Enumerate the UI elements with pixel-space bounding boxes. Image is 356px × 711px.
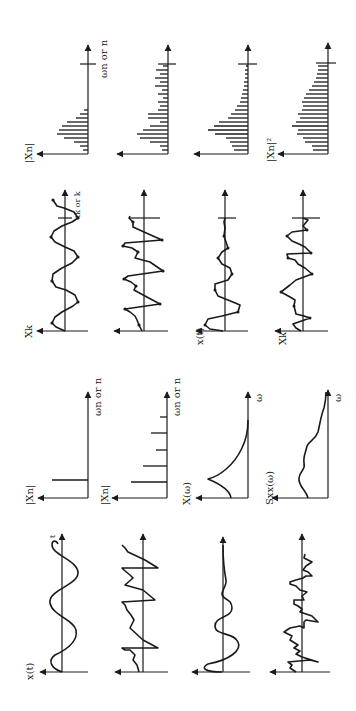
xn-abs-label: |Xn| (23, 143, 35, 163)
Sxx-omega-label: Sxx(ω) (264, 471, 275, 505)
peak-spectrum-curve (208, 420, 248, 498)
xn-abs-label: |Xn| (99, 485, 111, 505)
plot-random-continuous (270, 534, 330, 672)
xt-label: x(t) (194, 327, 205, 345)
omega-label: ω (253, 394, 264, 402)
spectrum-random-continuous: Sxx(ω) ω (264, 390, 343, 505)
plot-periodic-sampled (114, 190, 168, 331)
sine-wave (50, 541, 78, 672)
plot-sine-continuous: x(t) t (24, 534, 88, 680)
t-label: t (48, 534, 57, 538)
spectrum-sine-discrete: |Xn| ωn or n (23, 39, 109, 163)
spectral-lines (57, 110, 88, 150)
spectrum-transient-continuous: X(ω) ω (181, 392, 264, 505)
wn-or-n-label: ωn or n (98, 39, 109, 78)
wn-or-n-label: ωn or n (92, 377, 103, 416)
plot-periodic-continuous (115, 534, 168, 672)
periodic-wave (122, 545, 158, 672)
spectrum-random-discrete: |Xn|² (265, 43, 336, 162)
xk-label: Xk (277, 331, 288, 345)
xt-label: x(t) (24, 662, 35, 680)
xn-abs-sq-label: |Xn|² (265, 138, 277, 162)
spectral-lines (137, 66, 168, 150)
spectral-lines (292, 66, 328, 150)
sampled-random (281, 218, 312, 331)
plot-transient-sampled: x(t) (194, 190, 248, 345)
spectrum-sine-continuous: |Xn| ωn or n (24, 377, 103, 505)
sampled-periodic (123, 216, 163, 331)
omega-label: ω (332, 394, 343, 402)
random-signal (284, 554, 318, 672)
spectrum-periodic-discrete (117, 45, 176, 154)
tk-or-k-label: tk or k (73, 191, 82, 218)
sampled-transient (205, 218, 240, 331)
X-omega-label: X(ω) (181, 482, 192, 505)
plot-random-sampled: Xk (275, 190, 328, 345)
spectrum-transient-discrete (194, 45, 257, 154)
xn-abs-label: |Xn| (24, 485, 36, 505)
plot-sine-sampled: Xk tk or k (23, 190, 88, 338)
signal-spectrum-figure: x(t) t |Xn| ωn or n |Xn| ωn or n (0, 0, 356, 711)
plot-transient-continuous (192, 537, 250, 672)
spectrum-periodic-continuous: |Xn| ωn or n (99, 377, 182, 505)
broadband-spectrum-curve (299, 392, 326, 498)
xk-label: Xk (23, 324, 34, 338)
spectral-lines (208, 66, 248, 150)
decaying-oscillation (204, 545, 238, 672)
wn-or-n-label: ωn or n (171, 377, 182, 416)
